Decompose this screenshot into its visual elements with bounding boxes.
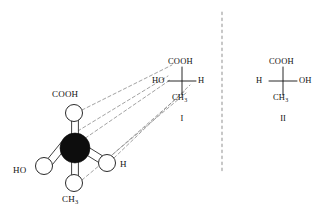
fischer-two-left-label: H: [256, 75, 262, 85]
ball-label-cooh: COOH: [52, 89, 78, 99]
fischer-two-numeral: II: [273, 113, 293, 123]
ball-label-h: H: [120, 159, 127, 169]
fischer-one-top-label: COOH: [168, 56, 193, 66]
fischer-one-right-label: H: [198, 75, 204, 85]
central-carbon-atom: [60, 133, 90, 163]
ray-ch3: [82, 93, 186, 180]
ball-label-ho: HO: [13, 165, 26, 175]
fischer-one-bottom-label: CH3: [172, 92, 187, 102]
ball-label-ch3-subscript: 3: [75, 198, 78, 205]
fischer-cross-two: [269, 67, 297, 95]
fischer-two-bottom-subscript: 3: [285, 97, 288, 103]
fischer-cross-one: [168, 67, 196, 95]
diagram-canvas: [0, 0, 319, 217]
substituent-sphere-h: [99, 155, 116, 172]
fischer-two-right-label: OH: [299, 75, 312, 85]
substituent-sphere-cooh: [66, 105, 83, 122]
fischer-one-numeral: I: [172, 113, 192, 123]
fischer-one-left-label: HO: [152, 75, 165, 85]
substituent-sphere-ch3: [66, 175, 83, 192]
fischer-one-bottom-subscript: 3: [184, 97, 187, 103]
substituent-sphere-ho: [36, 158, 53, 175]
fischer-two-top-label: COOH: [269, 56, 294, 66]
stereochemistry-figure: COOH HO H CH3 COOH HO H CH3 I COOH H OH …: [0, 0, 319, 217]
ball-label-ch3: CH3: [62, 194, 78, 204]
fischer-two-bottom-text: CH: [273, 92, 285, 102]
fischer-two-bottom-label: CH3: [273, 92, 288, 102]
fischer-one-bottom-text: CH: [172, 92, 184, 102]
ball-label-ch3-text: CH: [62, 194, 75, 204]
